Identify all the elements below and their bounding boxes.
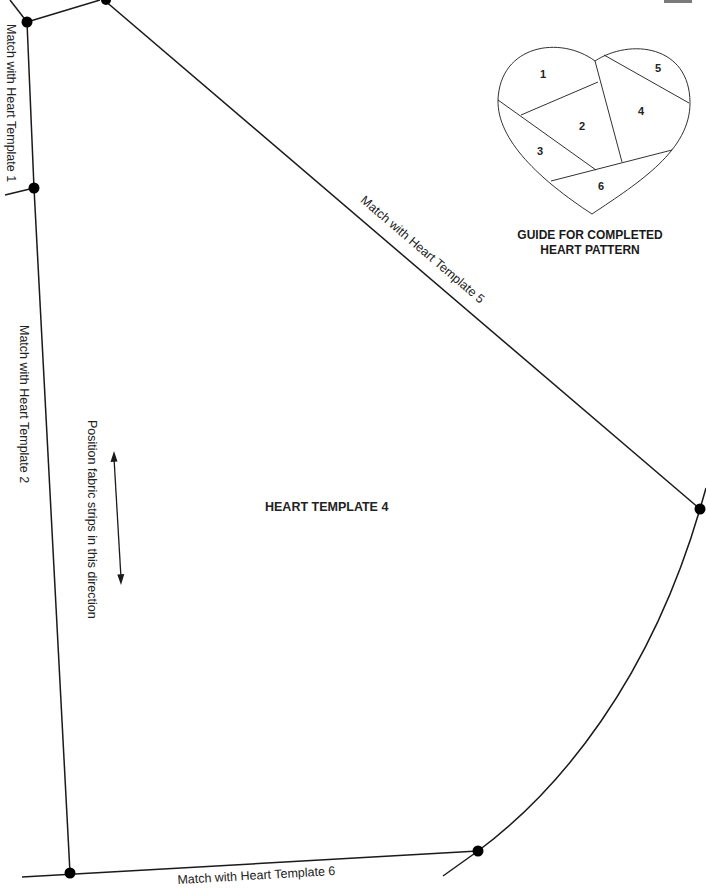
guide-piece-2: 2	[579, 120, 585, 132]
guide-title: GUIDE FOR COMPLETED HEART PATTERN	[490, 228, 690, 258]
edge-curve-right	[478, 488, 706, 851]
guide-title-line-1: GUIDE FOR COMPLETED	[490, 228, 690, 243]
edge-template-1	[27, 22, 34, 188]
divider-4-5	[604, 55, 689, 103]
divider-6	[551, 150, 672, 181]
edge-label-template-2: Match with Heart Template 2	[17, 325, 31, 483]
guide-piece-6: 6	[598, 180, 604, 192]
pattern-page: 1 2 3 4 5 6 GUIDE FOR COMPLETED HEART PA…	[0, 0, 706, 892]
heart-outline	[498, 47, 690, 214]
divider-2-3	[498, 100, 596, 170]
double-arrow-icon	[111, 451, 125, 585]
edge-stub-bottom	[443, 851, 478, 876]
direction-note: Position fabric strips in this direction	[85, 420, 99, 619]
divider-1-2	[521, 82, 598, 115]
match-dot	[22, 17, 33, 28]
template-outline	[0, 0, 706, 892]
match-dot	[29, 183, 40, 194]
guide-piece-5: 5	[655, 62, 661, 74]
divider-2-4	[595, 61, 622, 162]
edge-template-2	[34, 188, 70, 873]
edge-label-template-1: Match with Heart Template 1	[4, 24, 18, 182]
match-dot	[695, 504, 706, 515]
match-dot	[65, 868, 76, 879]
template-title: HEART TEMPLATE 4	[265, 500, 388, 514]
guide-piece-4: 4	[638, 105, 644, 117]
guide-piece-3: 3	[537, 145, 543, 157]
guide-heart-diagram	[498, 47, 690, 214]
edge-top-short	[27, 0, 100, 22]
guide-piece-1: 1	[540, 68, 546, 80]
guide-title-line-2: HEART PATTERN	[490, 243, 690, 258]
match-dot	[473, 846, 484, 857]
